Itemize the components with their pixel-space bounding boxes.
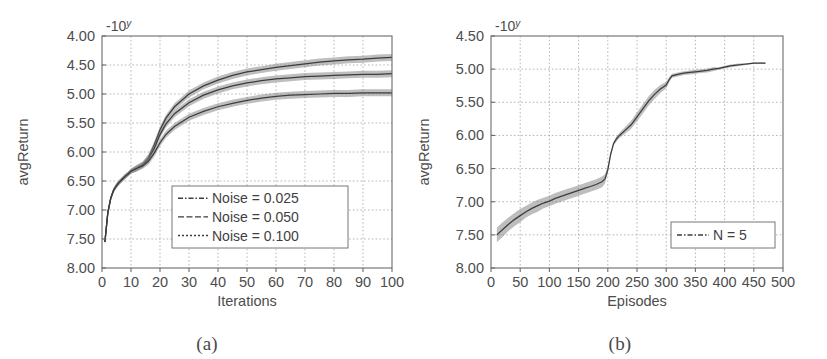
x-tick-label: 50 xyxy=(239,274,255,290)
chart-b: 0501001502002503003504004505004.505.005.… xyxy=(413,0,827,320)
x-tick-label: 0 xyxy=(487,274,495,290)
y-tick-label: 6.00 xyxy=(67,144,95,160)
x-tick-label: 250 xyxy=(625,274,649,290)
panel-b: 0501001502002503003504004505004.505.005.… xyxy=(413,0,827,359)
x-tick-label: 450 xyxy=(742,274,766,290)
y-tick-label: 4.50 xyxy=(456,28,484,44)
exponent-superscript: y xyxy=(514,18,521,29)
x-tick-label: 40 xyxy=(210,274,226,290)
panel-a: 01020304050607080901004.004.505.005.506.… xyxy=(0,0,414,359)
x-axis-title: Iterations xyxy=(217,293,277,309)
legend-label-2: Noise = 0.050 xyxy=(212,209,299,225)
subcaption-a: (a) xyxy=(0,333,414,355)
y-tick-label: 6.50 xyxy=(456,161,484,177)
y-tick-label: 4.50 xyxy=(67,57,95,73)
x-axis-title: Episodes xyxy=(607,293,667,309)
legend: Noise = 0.025Noise = 0.050Noise = 0.100 xyxy=(172,186,348,248)
x-tick-label: 20 xyxy=(152,274,168,290)
x-tick-label: 70 xyxy=(297,274,313,290)
subcaption-b: (b) xyxy=(413,333,827,355)
x-tick-label: 150 xyxy=(566,274,590,290)
y-tick-label: 5.00 xyxy=(456,61,484,77)
y-tick-label: 5.50 xyxy=(456,94,484,110)
y-tick-label: 7.50 xyxy=(67,231,95,247)
x-tick-label: 100 xyxy=(537,274,561,290)
x-tick-label: 200 xyxy=(596,274,620,290)
y-tick-label: 5.00 xyxy=(67,86,95,102)
x-tick-label: 90 xyxy=(355,274,371,290)
x-tick-label: 30 xyxy=(181,274,197,290)
x-tick-label: 10 xyxy=(123,274,139,290)
legend-label-3: Noise = 0.100 xyxy=(212,228,299,244)
y-tick-label: 4.00 xyxy=(67,28,95,44)
y-tick-label: 7.00 xyxy=(456,194,484,210)
exponent-annotation: -10y xyxy=(495,18,521,34)
x-tick-label: 100 xyxy=(380,274,404,290)
figure-container: 01020304050607080901004.004.505.005.506.… xyxy=(0,0,827,359)
legend-label-1: N = 5 xyxy=(713,227,747,243)
exponent-superscript: y xyxy=(125,18,132,29)
legend-label-1: Noise = 0.025 xyxy=(212,190,299,206)
y-tick-label: 6.00 xyxy=(456,127,484,143)
y-tick-label: 7.50 xyxy=(456,227,484,243)
x-tick-label: 300 xyxy=(654,274,678,290)
x-tick-label: 400 xyxy=(712,274,736,290)
x-tick-label: 50 xyxy=(512,274,528,290)
x-tick-label: 0 xyxy=(98,274,106,290)
x-tick-label: 350 xyxy=(683,274,707,290)
y-axis-title: avgReturn xyxy=(416,119,432,186)
legend: N = 5 xyxy=(671,222,775,248)
x-tick-label: 60 xyxy=(268,274,284,290)
x-tick-label: 500 xyxy=(771,274,795,290)
y-axis-title: avgReturn xyxy=(15,119,31,186)
y-tick-label: 7.00 xyxy=(67,202,95,218)
y-tick-label: 8.00 xyxy=(67,260,95,276)
x-tick-label: 80 xyxy=(326,274,342,290)
y-tick-label: 6.50 xyxy=(67,173,95,189)
y-tick-label: 5.50 xyxy=(67,115,95,131)
y-tick-label: 8.00 xyxy=(456,260,484,276)
chart-a: 01020304050607080901004.004.505.005.506.… xyxy=(0,0,414,320)
exponent-annotation: -10y xyxy=(106,18,132,34)
